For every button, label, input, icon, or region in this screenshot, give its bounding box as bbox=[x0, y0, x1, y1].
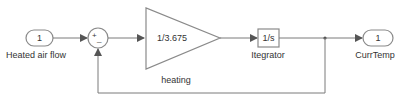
sum-minus-sign: _ bbox=[97, 35, 101, 43]
gain-label: heating bbox=[161, 75, 191, 85]
inport-label: Heated air flow bbox=[6, 50, 66, 60]
inport-number: 1 bbox=[37, 33, 42, 43]
integrator-value: 1/s bbox=[262, 33, 274, 43]
outport-number: 1 bbox=[375, 33, 380, 43]
integrator-label: Itegrator bbox=[251, 50, 285, 60]
outport-label: CurrTemp bbox=[355, 50, 395, 60]
diagram-canvas: 1 Heated air flow + _ 1/3.675 heating 1/… bbox=[0, 0, 404, 108]
sum-plus-sign: + bbox=[92, 32, 97, 40]
gain-value: 1/3.675 bbox=[157, 33, 187, 43]
signal-feedback[interactable] bbox=[98, 38, 325, 93]
